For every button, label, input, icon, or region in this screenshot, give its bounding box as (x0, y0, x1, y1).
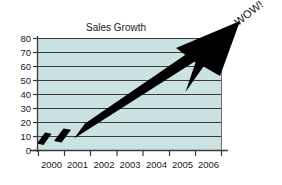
x-tick-label-2001: 2001 (67, 159, 88, 170)
x-tick-label-2000: 2000 (41, 159, 62, 170)
x-tick-label-2005: 2005 (172, 159, 193, 170)
x-tick-label-2006: 2006 (198, 159, 219, 170)
y-tick-label-10: 10 (20, 131, 31, 142)
y-tick-label-70: 70 (20, 47, 31, 58)
y-tick-label-0: 0 (26, 145, 31, 156)
chart-title: Sales Growth (86, 22, 146, 33)
y-tick-label-50: 50 (20, 75, 31, 86)
sales-growth-chart: 80 70 60 50 40 30 20 10 0 2000 2001 2002… (0, 0, 282, 185)
y-tick-label-30: 30 (20, 103, 31, 114)
x-tick-label-2003: 2003 (119, 159, 140, 170)
wow-annotation: WOW! (232, 0, 266, 28)
chart-container: 80 70 60 50 40 30 20 10 0 2000 2001 2002… (0, 0, 282, 185)
y-tick-label-60: 60 (20, 61, 31, 72)
y-tick-label-80: 80 (20, 33, 31, 44)
y-axis-labels: 80 70 60 50 40 30 20 10 0 (20, 33, 31, 156)
y-tick-label-20: 20 (20, 117, 31, 128)
x-tick-label-2002: 2002 (93, 159, 114, 170)
y-tick-label-40: 40 (20, 89, 31, 100)
x-tick-label-2004: 2004 (146, 159, 167, 170)
x-axis-labels: 2000 2001 2002 2003 2004 2005 2006 (41, 159, 219, 170)
